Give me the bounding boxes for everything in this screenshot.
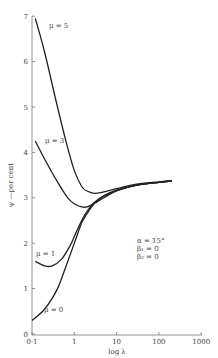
y-axis-label: ψ —per cent [7,163,15,207]
x-axis-label: log λ [108,348,126,356]
y-tick-label: 7 [24,13,28,21]
x-tick-label: 1000 [192,338,210,346]
curves [32,19,172,321]
annotation-beta2: β₂ = 0 [137,253,159,261]
y-tick-label: 3 [24,194,28,202]
y-tick-label: 4 [24,149,29,157]
series-label-mu5: μ = 5 [49,22,68,30]
curve-5 [35,19,171,194]
y-tick-label: 6 [24,58,29,66]
chart: 01234567 0·11101001000 log λ ψ —per cent… [0,0,218,358]
y-tick-label: 2 [24,240,28,248]
x-ticks: 0·11101001000 [26,332,210,346]
y-tick-label: 1 [24,285,28,293]
y-tick-label: 5 [24,104,28,112]
annotation-alpha: α = 15° [137,237,164,245]
x-tick-label: 1 [72,338,76,346]
x-tick-label: 10 [112,338,121,346]
x-tick-label: 0·1 [26,338,37,346]
series-label-mu0: μ = 0 [44,306,63,314]
y-ticks: 01234567 [24,13,35,339]
annotation-beta1: β₁ = 0 [137,245,159,253]
series-label-mu3: μ = 3 [45,137,64,145]
x-tick-label: 100 [152,338,165,346]
series-label-mu1: μ = 1 [36,250,55,258]
